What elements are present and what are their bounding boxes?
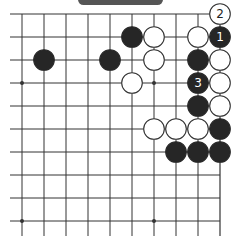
- white-stone[interactable]: [210, 73, 231, 94]
- black-stone[interactable]: [34, 50, 55, 71]
- black-stone[interactable]: [166, 142, 187, 163]
- black-stone[interactable]: [188, 50, 209, 71]
- black-stone[interactable]: [188, 142, 209, 163]
- star-point: [152, 81, 156, 85]
- star-point: [152, 219, 156, 223]
- star-point: [20, 219, 24, 223]
- black-stone[interactable]: [210, 142, 231, 163]
- white-stone[interactable]: [188, 27, 209, 48]
- black-stone[interactable]: [122, 27, 143, 48]
- white-stone[interactable]: [210, 50, 231, 71]
- move-number-label: 1: [216, 30, 224, 44]
- white-stone[interactable]: [144, 50, 165, 71]
- move-number-label: 3: [194, 76, 202, 90]
- go-board[interactable]: 213: [0, 0, 242, 241]
- white-stone[interactable]: [144, 27, 165, 48]
- white-stone[interactable]: [188, 119, 209, 140]
- white-stone[interactable]: [122, 73, 143, 94]
- white-stone[interactable]: [166, 119, 187, 140]
- white-stone[interactable]: [210, 96, 231, 117]
- black-stone[interactable]: [188, 96, 209, 117]
- star-point: [20, 81, 24, 85]
- black-stone[interactable]: [100, 50, 121, 71]
- white-stone[interactable]: [144, 119, 165, 140]
- black-stone[interactable]: [210, 119, 231, 140]
- move-number-label: 2: [216, 7, 224, 21]
